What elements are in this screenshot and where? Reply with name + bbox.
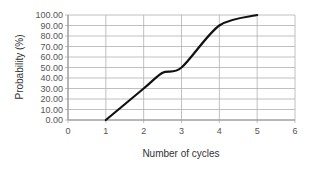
y-tick-label: 40.00 (40, 73, 63, 83)
y-tick-label: 20.00 (40, 94, 63, 104)
x-tick-label: 3 (179, 126, 184, 136)
y-tick-label: 50.00 (40, 63, 63, 73)
y-axis-ticks: 0.0010.0020.0030.0040.0050.0060.0070.008… (35, 10, 63, 125)
x-tick-label: 5 (255, 126, 260, 136)
y-axis-label: Probability (%) (14, 34, 25, 99)
y-tick-label: 0.00 (45, 115, 63, 125)
y-tick-label: 100.00 (35, 10, 63, 20)
x-tick-label: 1 (103, 126, 108, 136)
x-tick-label: 6 (292, 126, 297, 136)
x-tick-label: 4 (217, 126, 222, 136)
x-tick-label: 0 (65, 126, 70, 136)
y-tick-label: 60.00 (40, 52, 63, 62)
y-tick-label: 70.00 (40, 42, 63, 52)
y-tick-label: 80.00 (40, 31, 63, 41)
x-axis-ticks: 0123456 (65, 126, 297, 136)
x-axis-label: Number of cycles (142, 148, 219, 159)
y-tick-label: 90.00 (40, 21, 63, 31)
line-chart: 0.0010.0020.0030.0040.0050.0060.0070.008… (0, 0, 313, 188)
y-tick-label: 30.00 (40, 84, 63, 94)
y-tick-label: 10.00 (40, 105, 63, 115)
x-tick-label: 2 (141, 126, 146, 136)
